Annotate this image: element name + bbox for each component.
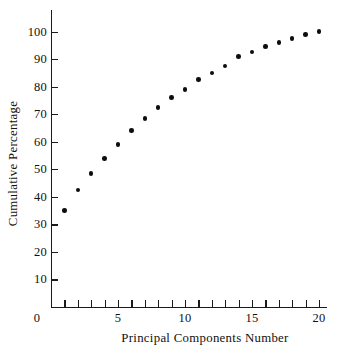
data-point — [129, 128, 134, 133]
data-point — [303, 32, 308, 37]
data-point — [62, 208, 67, 213]
data-point — [250, 50, 255, 55]
data-point — [143, 116, 148, 121]
data-point — [210, 71, 215, 76]
data-point — [156, 105, 161, 110]
data-point — [277, 40, 282, 45]
data-point — [183, 87, 188, 92]
data-point — [196, 77, 201, 82]
data-point — [89, 171, 94, 176]
data-point — [76, 188, 81, 193]
data-point — [317, 29, 322, 34]
data-point — [263, 44, 268, 49]
y-axis-title: Cumulative Percentage — [6, 64, 21, 264]
data-point — [290, 36, 295, 41]
data-point — [236, 54, 241, 59]
scatter-chart-figure: 102030405060708090100 05101520 Cumulativ… — [0, 0, 338, 357]
data-points-layer — [0, 0, 338, 357]
data-point — [169, 95, 174, 100]
data-point — [102, 156, 107, 161]
x-axis-title: Principal Components Number — [80, 331, 330, 346]
data-point — [223, 64, 228, 69]
data-point — [116, 142, 121, 147]
